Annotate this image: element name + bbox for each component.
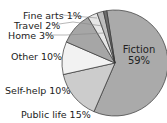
label-fiction: Fiction 59%: [119, 44, 159, 66]
label-home: Home 3%: [8, 31, 54, 41]
label-public-life: Public life 15%: [21, 110, 91, 120]
label-other: Other 10%: [11, 52, 62, 62]
label-self-help: Self-help 10%: [5, 86, 70, 96]
label-fiction-name: Fiction: [119, 44, 159, 55]
label-fiction-pct: 59%: [119, 55, 159, 66]
